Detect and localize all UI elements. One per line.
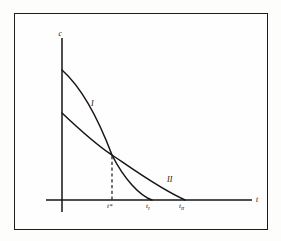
plot-canvas	[0, 0, 281, 241]
y-axis-label: c	[59, 30, 62, 38]
curve-label-i: I	[91, 100, 94, 108]
tick-label-t-one-subscript: I	[148, 206, 150, 211]
figure-root: c t I II t* tI tII	[0, 0, 281, 241]
curve-ii-path	[62, 113, 185, 200]
curve-label-ii: II	[167, 176, 172, 184]
tick-label-t-star: t*	[107, 203, 112, 210]
tick-label-t-two: tII	[179, 203, 184, 212]
tick-label-t-two-subscript: II	[181, 206, 184, 211]
curve-i-path	[62, 70, 152, 200]
x-axis-label: t	[256, 196, 258, 204]
tick-label-t-one: tI	[146, 203, 150, 212]
